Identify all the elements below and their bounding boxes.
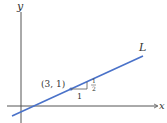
y-axis-label: y: [16, 0, 24, 13]
line-label: L: [138, 41, 146, 54]
rise-label-numerator: 1: [92, 77, 96, 84]
x-axis-label: x: [159, 100, 165, 111]
run-label: 1: [77, 92, 82, 101]
coordinate-diagram: y x L (3, 1) 1 1 2: [0, 0, 167, 123]
rise-label-denominator: 2: [92, 85, 96, 92]
line-L: [12, 56, 143, 116]
point-label: (3, 1): [41, 79, 65, 89]
